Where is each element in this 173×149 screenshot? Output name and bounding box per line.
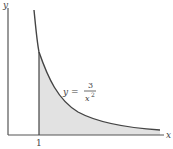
y-axis-label: y — [2, 0, 9, 10]
equation-denominator: x — [85, 94, 90, 103]
equation-numerator: 3 — [88, 81, 93, 90]
equation-label: y = 3 x 2 — [62, 81, 96, 103]
graph: y x 1 y = 3 x 2 — [0, 0, 173, 149]
equation-exponent: 2 — [91, 91, 95, 98]
shaded-area — [39, 52, 160, 135]
tick-label-1: 1 — [36, 138, 42, 148]
x-axis-label: x — [166, 130, 171, 140]
equation-lhs: y = — [62, 87, 79, 97]
